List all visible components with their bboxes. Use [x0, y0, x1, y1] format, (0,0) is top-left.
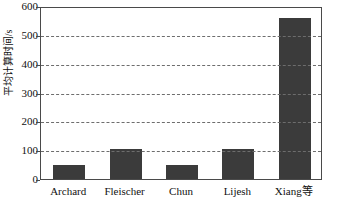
y-axis-tick-mark	[36, 180, 40, 181]
gridline	[41, 94, 321, 95]
bar	[166, 165, 198, 179]
y-axis-tick-label: 500	[8, 30, 38, 41]
gridline	[41, 65, 321, 66]
y-axis-tick-mark	[36, 122, 40, 123]
bar-chart: 平均计算时间/s 0100200300400500600 ArchardFlei…	[0, 0, 337, 207]
x-axis-tick-label: Fleischer	[96, 184, 152, 198]
x-axis-tick-label: Lijesh	[209, 184, 265, 198]
y-axis-tick-mark	[36, 151, 40, 152]
y-axis-tick-label: 400	[8, 59, 38, 70]
x-axis-tick-label: Chun	[153, 184, 209, 198]
bar	[222, 149, 254, 179]
y-axis-tick-label: 100	[8, 145, 38, 156]
bar	[279, 18, 311, 179]
y-axis-tick-mark	[36, 65, 40, 66]
x-axis-tick-label: Archard	[40, 184, 96, 198]
y-axis-tick-label: 600	[8, 1, 38, 12]
x-axis-tick-labels: ArchardFleischerChunLijeshXiang等	[40, 184, 322, 200]
y-axis-tick-label: 300	[8, 88, 38, 99]
y-axis-tick-label: 200	[8, 116, 38, 127]
bar	[110, 149, 142, 179]
bar	[53, 165, 85, 179]
y-axis-tick-mark	[36, 94, 40, 95]
gridline	[41, 122, 321, 123]
plot-area	[40, 7, 322, 180]
x-axis-tick-label: Xiang等	[266, 184, 322, 198]
gridline	[41, 36, 321, 37]
y-axis-tick-label: 0	[8, 174, 38, 185]
y-axis-tick-mark	[36, 7, 40, 8]
y-axis-tick-mark	[36, 36, 40, 37]
gridline	[41, 151, 321, 152]
y-axis-tick-labels: 0100200300400500600	[8, 0, 38, 207]
